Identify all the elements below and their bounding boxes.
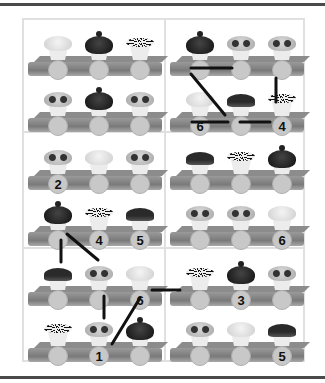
- cupcake-plain: [267, 202, 297, 232]
- cupcake-candy: [84, 318, 114, 348]
- panel-4: 6: [166, 134, 306, 247]
- answer-slot[interactable]: [130, 60, 150, 80]
- answer-slot[interactable]: 6: [190, 116, 210, 136]
- answer-slot[interactable]: [130, 346, 150, 366]
- cupcake-sprinkle: [43, 318, 73, 348]
- cupcake-drip: [43, 262, 73, 292]
- answer-slot[interactable]: [48, 116, 68, 136]
- cupcake-drip: [226, 88, 256, 118]
- answer-slot[interactable]: 5: [272, 346, 292, 366]
- bottom-rule: [0, 376, 325, 379]
- cupcake-plain: [84, 146, 114, 176]
- cupcake-sprinkle: [267, 88, 297, 118]
- cupcake-sprinkle: [125, 32, 155, 62]
- cupcake-dark: [43, 202, 73, 232]
- panel-5: 61: [24, 250, 164, 363]
- top-rule: [0, 3, 325, 6]
- answer-slot[interactable]: 3: [231, 290, 251, 310]
- answer-slot[interactable]: [48, 290, 68, 310]
- answer-slot[interactable]: [48, 230, 68, 250]
- answer-slot[interactable]: [89, 60, 109, 80]
- cupcake-plain: [185, 88, 215, 118]
- cupcake-candy: [185, 318, 215, 348]
- answer-slot[interactable]: [272, 290, 292, 310]
- cupcake-candy: [267, 262, 297, 292]
- cupcake-dark: [185, 32, 215, 62]
- cupcake-candy: [43, 88, 73, 118]
- cupcake-plain: [226, 318, 256, 348]
- answer-slot[interactable]: [89, 116, 109, 136]
- answer-slot[interactable]: [190, 290, 210, 310]
- answer-slot[interactable]: [231, 174, 251, 194]
- answer-slot[interactable]: [89, 174, 109, 194]
- answer-slot[interactable]: [190, 346, 210, 366]
- answer-slot[interactable]: 1: [89, 346, 109, 366]
- cupcake-dark: [267, 146, 297, 176]
- panel-6: 35: [166, 250, 306, 363]
- answer-slot[interactable]: [190, 60, 210, 80]
- cupcake-dark: [84, 88, 114, 118]
- cupcake-plain: [125, 262, 155, 292]
- answer-slot[interactable]: [190, 230, 210, 250]
- panel-1: [24, 20, 164, 133]
- cupcake-candy: [267, 32, 297, 62]
- answer-slot[interactable]: 6: [272, 230, 292, 250]
- panel-3: 245: [24, 134, 164, 247]
- cupcake-sprinkle: [226, 146, 256, 176]
- answer-slot[interactable]: [231, 60, 251, 80]
- cupcake-candy: [84, 262, 114, 292]
- answer-slot[interactable]: 6: [130, 290, 150, 310]
- answer-slot[interactable]: 4: [89, 230, 109, 250]
- answer-slot[interactable]: [231, 346, 251, 366]
- answer-slot[interactable]: [231, 116, 251, 136]
- answer-slot[interactable]: [272, 174, 292, 194]
- cupcake-plain: [43, 32, 73, 62]
- cupcake-dark: [84, 32, 114, 62]
- cupcake-drip: [185, 146, 215, 176]
- answer-slot[interactable]: [48, 60, 68, 80]
- cupcake-dark: [226, 262, 256, 292]
- cupcake-dark: [125, 318, 155, 348]
- answer-slot[interactable]: [130, 174, 150, 194]
- cupcake-drip: [125, 202, 155, 232]
- answer-slot[interactable]: [231, 230, 251, 250]
- cupcake-candy: [226, 32, 256, 62]
- cupcake-candy: [125, 88, 155, 118]
- cupcake-candy: [43, 146, 73, 176]
- cupcake-candy: [226, 202, 256, 232]
- answer-slot[interactable]: [190, 174, 210, 194]
- answer-slot[interactable]: 5: [130, 230, 150, 250]
- cupcake-sprinkle: [185, 262, 215, 292]
- cupcake-sprinkle: [84, 202, 114, 232]
- answer-slot[interactable]: [272, 60, 292, 80]
- cupcake-candy: [185, 202, 215, 232]
- answer-slot[interactable]: 4: [272, 116, 292, 136]
- panel-2: 64: [166, 20, 306, 133]
- cupcake-candy: [125, 146, 155, 176]
- answer-slot[interactable]: 2: [48, 174, 68, 194]
- answer-slot[interactable]: [48, 346, 68, 366]
- cupcake-drip: [267, 318, 297, 348]
- answer-slot[interactable]: [130, 116, 150, 136]
- answer-slot[interactable]: [89, 290, 109, 310]
